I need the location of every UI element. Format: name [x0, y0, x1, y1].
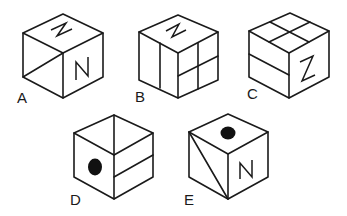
cubes-svg: A B C D [0, 0, 347, 216]
cube-c-label: C [247, 85, 258, 102]
cube-b: B [135, 15, 218, 105]
cube-c-inner-edges [249, 31, 329, 53]
cube-d-right-horizontal-line [114, 155, 153, 177]
cube-c: C [247, 13, 329, 102]
cube-e-top-dot-icon [221, 127, 236, 140]
cube-d-label: D [70, 191, 81, 208]
cube-c-left-horizontal-line [249, 54, 289, 75]
cube-a-top-letter-n-icon [51, 23, 72, 36]
cube-a-right-letter-n-icon [76, 57, 88, 80]
cube-e-left-diagonal [189, 132, 228, 199]
cube-d: D [70, 115, 153, 208]
cube-a-left-diagonal [23, 53, 63, 77]
cube-a-inner-edges [23, 33, 103, 53]
cube-e-right-letter-n-icon [240, 160, 252, 179]
cube-a-label: A [17, 89, 27, 106]
cube-c-right-letter-z-icon [300, 56, 315, 81]
cube-a: A [17, 14, 103, 106]
cube-d-left-dot-icon [88, 159, 102, 176]
cube-e: E [184, 114, 268, 208]
cube-b-label: B [135, 88, 145, 105]
cube-b-top-letter-n-icon [166, 24, 186, 37]
cube-b-inner-edges [139, 32, 218, 53]
cube-e-label: E [184, 191, 194, 208]
cube-options-figure: A B C D [0, 0, 347, 216]
